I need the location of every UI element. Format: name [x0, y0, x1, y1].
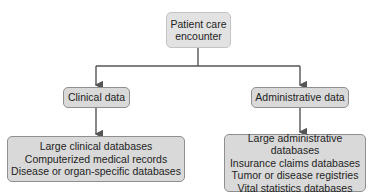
node-clinical-sources: Large clinical databases Computerized me…	[7, 136, 185, 182]
clinical-data-label: Clinical data	[68, 91, 125, 104]
node-administrative-sources: Large administrative databases Insurance…	[224, 134, 366, 192]
clinical-source-item: Computerized medical records	[25, 153, 167, 166]
administrative-source-item: Large administrative databases	[225, 132, 365, 157]
root-label-line1: Patient care	[170, 18, 226, 31]
root-node-patient-care-encounter: Patient care encounter	[166, 12, 231, 48]
clinical-source-item: Large clinical databases	[40, 140, 153, 153]
administrative-source-item: Insurance claims databases	[230, 157, 360, 170]
root-label-line2: encounter	[175, 30, 222, 43]
node-clinical-data: Clinical data	[63, 87, 130, 108]
administrative-data-label: Administrative data	[255, 91, 344, 104]
administrative-source-item: Tumor or disease registries	[232, 169, 359, 182]
administrative-source-item: Vital statistics databases	[238, 182, 353, 195]
node-administrative-data: Administrative data	[251, 87, 349, 108]
clinical-source-item: Disease or organ-specific databases	[11, 165, 181, 178]
